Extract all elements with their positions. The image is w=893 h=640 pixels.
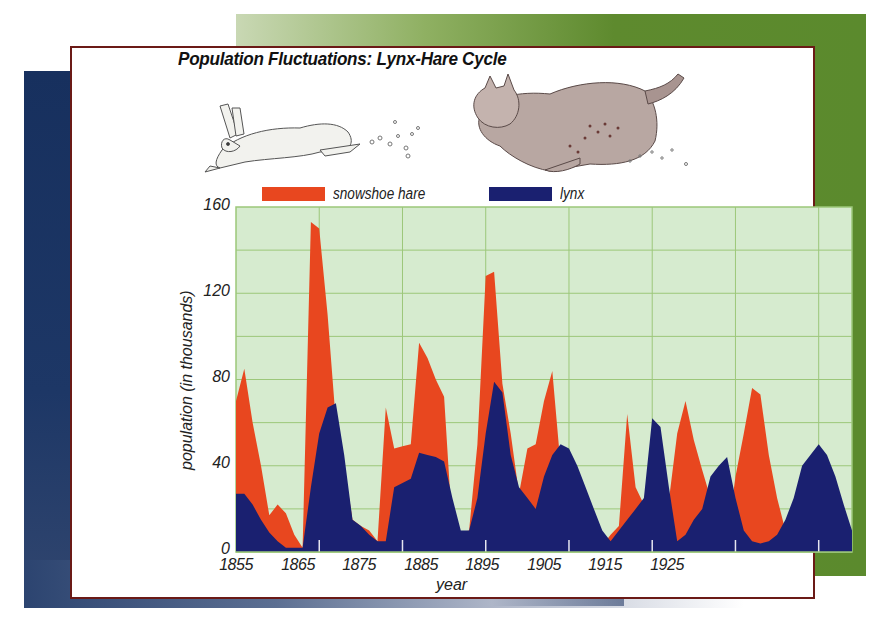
x-tick-1855: 1855 [206, 556, 266, 574]
x-tick-1875: 1875 [329, 556, 389, 574]
x-axis-label: year [436, 576, 467, 594]
y-tick-120: 120 [200, 282, 230, 300]
plot-area [0, 0, 893, 640]
x-tick-1865: 1865 [268, 556, 328, 574]
y-axis-label: population (in thousands) [178, 290, 196, 470]
y-tick-80: 80 [200, 368, 230, 386]
x-tick-1915: 1915 [575, 556, 635, 574]
x-tick-1925: 1925 [637, 556, 697, 574]
x-tick-1905: 1905 [514, 556, 574, 574]
x-tick-1895: 1895 [452, 556, 512, 574]
y-tick-40: 40 [200, 454, 230, 472]
y-tick-160: 160 [200, 196, 230, 214]
x-tick-1885: 1885 [391, 556, 451, 574]
